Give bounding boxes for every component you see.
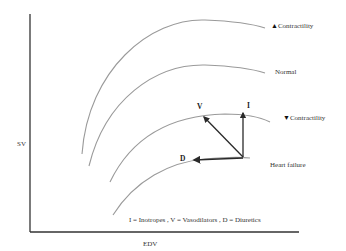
arrow-label-inotropes: I xyxy=(247,102,250,110)
curve-heart-failure xyxy=(113,157,250,215)
curve-increased-contractility xyxy=(82,20,265,154)
frank-starling-diagram xyxy=(0,0,346,251)
label-heart-failure: Heart failure xyxy=(270,162,306,169)
label-normal: Normal xyxy=(275,69,296,76)
x-axis-label: EDV xyxy=(143,241,157,248)
arrow-label-diuretics: D xyxy=(180,155,185,163)
arrow-down-icon: ▼ xyxy=(283,114,290,122)
label-decreased-contractility: ▼Contractility xyxy=(283,115,325,122)
curve-decreased-contractility xyxy=(110,114,270,182)
y-axis-label: SV xyxy=(17,141,26,148)
arrow-vasodilators xyxy=(204,117,243,157)
label-increased-contractility: ▲Contractility xyxy=(271,23,313,30)
arrow-label-vasodilators: V xyxy=(197,103,202,111)
arrow-up-icon: ▲ xyxy=(271,22,278,30)
legend: I = Inotropes , V = Vasodilators , D = D… xyxy=(129,217,261,224)
curve-normal xyxy=(89,65,265,166)
arrow-diuretics xyxy=(194,158,243,160)
